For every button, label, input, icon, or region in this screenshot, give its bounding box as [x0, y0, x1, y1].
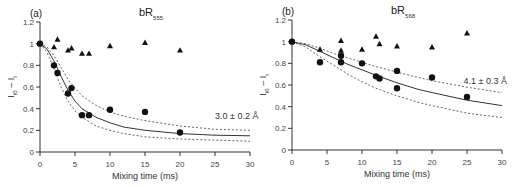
circle-marker: [464, 94, 470, 100]
triangle-marker: [51, 44, 57, 49]
triangle-marker: [338, 47, 344, 52]
triangle-marker: [177, 47, 183, 52]
circle-marker: [338, 53, 344, 59]
panel-label: (b): [282, 6, 294, 17]
panel-title: bR568: [391, 4, 416, 19]
y-axis-title: It0 – It: [258, 74, 270, 96]
chart-canvas: 00.20.40.60.811.2051015202530Mixing time…: [0, 0, 521, 187]
x-tick-label: 0: [290, 158, 295, 167]
svg-text:It0 – It: It0 – It: [6, 76, 18, 98]
circle-marker: [54, 70, 60, 76]
x-tick-label: 30: [246, 160, 255, 169]
triangle-marker: [317, 46, 323, 51]
x-tick-label: 15: [141, 160, 150, 169]
panel-title: bR555: [139, 6, 164, 21]
circle-marker: [107, 107, 113, 113]
x-tick-label: 10: [106, 160, 115, 169]
y-tick-label: 0.4: [23, 105, 35, 114]
y-tick-label: 1: [30, 40, 35, 49]
circle-marker: [65, 90, 71, 96]
circle-marker: [79, 112, 85, 118]
x-tick-label: 5: [73, 160, 78, 169]
triangle-marker: [86, 50, 92, 55]
y-tick-label: 0.6: [23, 83, 35, 92]
fit-distance-annotation: 3.0 ± 0.2 Å: [215, 111, 258, 121]
bound-curve: [40, 44, 250, 142]
y-tick-label: 0: [30, 148, 35, 157]
circle-marker: [429, 74, 435, 80]
y-tick-label: 0: [282, 146, 287, 155]
triangle-marker: [429, 44, 435, 49]
triangle-marker: [394, 43, 400, 48]
circle-marker: [86, 112, 92, 118]
x-tick-label: 25: [463, 158, 472, 167]
triangle-marker: [107, 43, 113, 48]
circle-marker: [394, 85, 400, 91]
circle-marker: [394, 68, 400, 74]
x-tick-label: 0: [38, 160, 43, 169]
y-axis-title: It0 – It: [6, 76, 18, 98]
x-tick-label: 20: [176, 160, 185, 169]
triangle-marker: [464, 30, 470, 35]
fit-distance-annotation: 4.1 ± 0.3 Å: [464, 76, 507, 86]
panel-label: (a): [30, 8, 42, 19]
circle-marker: [376, 75, 382, 81]
x-tick-label: 30: [498, 158, 507, 167]
y-tick-label: 0.2: [23, 126, 35, 135]
y-tick-label: 0.6: [275, 81, 287, 90]
circle-marker: [142, 109, 148, 115]
svg-text:It0 – It: It0 – It: [258, 74, 270, 96]
circle-marker: [177, 129, 183, 135]
triangle-marker: [69, 45, 75, 50]
x-tick-label: 10: [358, 158, 367, 167]
panel-b: 00.20.40.60.811.2051015202530Mixing time…: [258, 4, 507, 179]
triangle-marker: [142, 40, 148, 45]
figure: 00.20.40.60.811.2051015202530Mixing time…: [0, 0, 521, 187]
circle-marker: [359, 60, 365, 66]
triangle-marker: [377, 41, 383, 46]
panel-a: 00.20.40.60.811.2051015202530Mixing time…: [6, 6, 258, 181]
y-tick-label: 1: [282, 38, 287, 47]
x-tick-label: 5: [325, 158, 330, 167]
y-tick-label: 0.8: [275, 59, 287, 68]
circle-marker: [338, 59, 344, 65]
y-tick-label: 1.2: [23, 18, 35, 27]
triangle-marker: [79, 50, 85, 55]
x-tick-label: 25: [211, 160, 220, 169]
y-tick-label: 0.2: [275, 124, 287, 133]
x-tick-label: 15: [393, 158, 402, 167]
triangle-marker: [338, 38, 344, 43]
y-tick-label: 0.8: [23, 61, 35, 70]
y-tick-label: 1.2: [275, 16, 287, 25]
triangle-marker: [373, 33, 379, 38]
x-axis-title: Mixing time (ms): [112, 171, 178, 181]
triangle-marker: [359, 46, 365, 51]
circle-marker: [51, 62, 57, 68]
y-tick-label: 0.4: [275, 103, 287, 112]
circle-marker: [68, 85, 74, 91]
x-tick-label: 20: [428, 158, 437, 167]
circle-marker: [317, 59, 323, 65]
triangle-marker: [55, 36, 61, 41]
x-axis-title: Mixing time (ms): [364, 169, 430, 179]
